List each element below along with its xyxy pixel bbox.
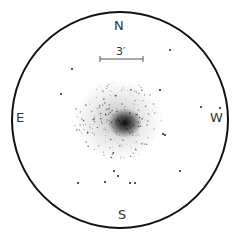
scale-label: 3′	[116, 46, 126, 57]
west-label: W	[210, 111, 223, 124]
north-label: N	[114, 19, 124, 32]
south-label: S	[118, 208, 126, 221]
eyepiece-sketch	[0, 0, 236, 236]
east-label: E	[16, 111, 24, 124]
cluster-core	[108, 108, 142, 138]
